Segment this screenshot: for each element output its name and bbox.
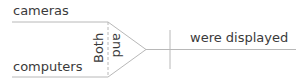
diagram-canvas: cameras computers Both and were displaye… bbox=[0, 0, 307, 83]
subject-word-top: cameras bbox=[13, 3, 69, 18]
predicate-word: were displayed bbox=[190, 30, 288, 45]
sentence-diagram: cameras computers Both and were displaye… bbox=[0, 0, 307, 83]
conjunction-left: Both bbox=[91, 33, 106, 63]
subject-word-bottom: computers bbox=[13, 59, 83, 74]
conjunction-right: and bbox=[110, 33, 125, 57]
